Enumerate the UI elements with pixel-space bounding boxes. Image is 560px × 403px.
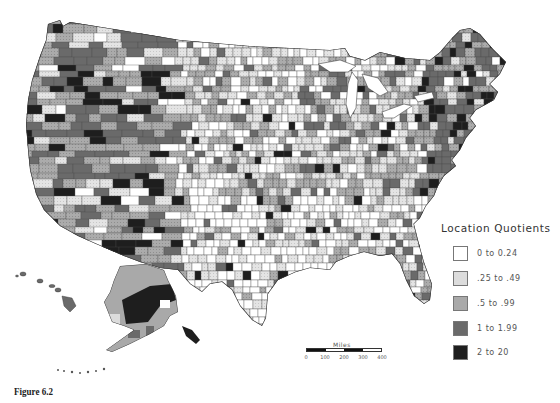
hawaii-inset: [16, 272, 77, 312]
legend-item: .25 to .49: [453, 269, 521, 287]
legend-label: 1 to 1.99: [477, 324, 518, 333]
scale-tick: 200: [339, 354, 349, 360]
legend-label: .25 to .49: [477, 274, 521, 283]
legend: Location Quotients 0 to 0.24 .25 to .49 …: [441, 222, 560, 234]
legend-label: .5 to .99: [477, 299, 515, 308]
legend-swatch: [453, 345, 468, 360]
figure-caption: Figure 6.2: [14, 385, 53, 397]
legend-swatch: [453, 246, 468, 261]
legend-swatch: [453, 271, 468, 286]
legend-title: Location Quotients: [441, 222, 560, 234]
scale-tick: 0: [304, 354, 307, 360]
scale-tick: 400: [377, 354, 387, 360]
alaska-panhandle: [182, 326, 200, 344]
scale-tick: 100: [320, 354, 330, 360]
scale-bar-graphic: [306, 348, 382, 352]
legend-item: 0 to 0.24: [453, 244, 518, 262]
legend-item: 2 to 20: [453, 343, 509, 361]
map-figure: Location Quotients 0 to 0.24 .25 to .49 …: [0, 0, 560, 403]
legend-item: 1 to 1.99: [453, 319, 518, 337]
legend-label: 0 to 0.24: [477, 249, 518, 258]
alaska-inset: [100, 260, 190, 360]
legend-item: .5 to .99: [453, 294, 515, 312]
scale-tick: 300: [358, 354, 368, 360]
scale-ticks: 0 100 200 300 400: [303, 354, 385, 362]
legend-swatch: [453, 321, 468, 336]
legend-swatch: [453, 296, 468, 311]
aleutian-islands: [57, 368, 105, 374]
scale-title: Miles: [333, 341, 351, 348]
legend-label: 2 to 20: [477, 348, 509, 357]
